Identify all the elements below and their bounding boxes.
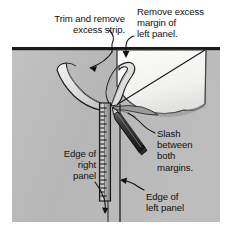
callout-edge-of-right-panel: Edge of right panel: [24, 148, 96, 182]
callout-trim-excess-strip: Trim and remove excess strip.: [10, 13, 125, 35]
callout-remove-excess-margin: Remove excess margin of left panel.: [137, 6, 225, 40]
callout-slash-between-margins: Slash between both margins.: [157, 128, 219, 173]
callout-edge-of-left-panel: Edge of left panel: [146, 191, 218, 213]
figure-container: Trim and remove excess strip. Remove exc…: [0, 0, 231, 234]
metal-ruler: [100, 103, 111, 201]
